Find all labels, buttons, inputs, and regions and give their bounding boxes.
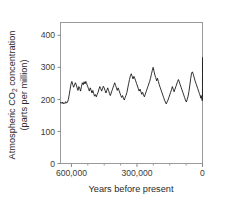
x-tick-marks <box>71 164 202 168</box>
x-tick-label-2: 0 <box>200 168 205 178</box>
co2-line-series <box>61 58 203 104</box>
x-tick-label-1: 300,000 <box>121 168 152 178</box>
data-series-group <box>61 58 203 104</box>
y-axis-title-tail: concentration <box>7 31 17 89</box>
y-tick-label-300: 300 <box>41 62 56 72</box>
y-tick-label-200: 200 <box>41 95 56 105</box>
y-axis-title-line2: (parts per million) <box>19 60 29 131</box>
y-tick-label-100: 100 <box>41 127 56 137</box>
y-axis-title-line1: Atmospheric CO2 concentration <box>7 31 18 160</box>
y-axis-title-text: Atmospheric CO <box>7 92 17 159</box>
x-tick-label-0: 600,000 <box>56 168 87 178</box>
plot-frame <box>61 23 203 164</box>
y-tick-label-400: 400 <box>41 30 56 40</box>
y-tick-label-0: 0 <box>50 159 55 169</box>
y-axis: 0100200300400 <box>41 30 61 168</box>
x-axis-title: Years before present <box>89 184 174 194</box>
x-axis: 600,000300,0000 <box>56 164 205 179</box>
chart-canvas: 0100200300400 600,000300,0000 Atmospheri… <box>0 0 240 204</box>
y-axis-title: Atmospheric CO2 concentration (parts per… <box>7 31 29 160</box>
co2-chart-figure: 0100200300400 600,000300,0000 Atmospheri… <box>0 0 240 204</box>
x-tick-labels: 600,000300,0000 <box>56 168 205 178</box>
y-tick-labels: 0100200300400 <box>41 30 56 168</box>
